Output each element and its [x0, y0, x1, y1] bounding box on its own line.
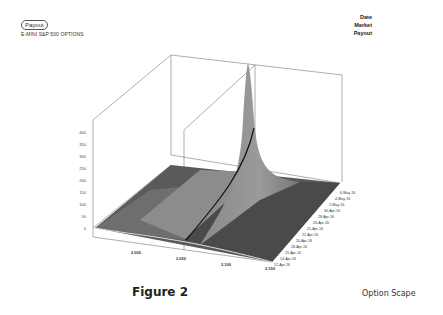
date-tick: 4-May-16 [335, 197, 350, 201]
z-tick: 100 [72, 202, 86, 207]
date-tick: 12-Apr-16 [274, 263, 290, 267]
z-tick: 0 [72, 226, 86, 231]
figure-caption: Option Scape [362, 289, 416, 298]
z-tick: 200 [72, 178, 86, 183]
surface-chart [0, 0, 443, 315]
x-tick: 2,050 [176, 256, 186, 261]
date-tick: 26-Apr-16 [313, 221, 329, 225]
date-tick: 20-Apr-16 [296, 239, 312, 243]
date-tick: 2-May-16 [329, 203, 344, 207]
z-tick: 50 [72, 214, 86, 219]
date-tick: 28-Apr-16 [318, 215, 334, 219]
figure-label: Figure 2 [132, 285, 188, 299]
date-tick: 21-Apr-16 [307, 227, 323, 231]
date-tick: 15-Apr-16 [285, 251, 301, 255]
x-tick: 2,000 [131, 250, 141, 255]
z-tick: 350 [72, 142, 86, 147]
z-tick: 250 [72, 166, 86, 171]
date-tick: 18-Apr-16 [291, 245, 307, 249]
z-tick: 150 [72, 190, 86, 195]
date-tick: 30-Apr-16 [324, 209, 340, 213]
date-tick: 6-May-16 [340, 191, 355, 195]
x-tick: 2,100 [221, 262, 231, 267]
date-tick: 14-Apr-16 [280, 257, 296, 261]
z-tick: 400 [72, 130, 86, 135]
date-tick: 22-Apr-16 [302, 233, 318, 237]
z-tick: 300 [72, 154, 86, 159]
